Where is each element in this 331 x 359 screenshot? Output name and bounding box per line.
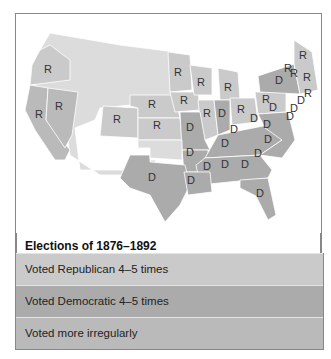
state-party-label: R xyxy=(44,63,52,75)
state-party-label: D xyxy=(186,121,194,133)
state-party-label: D xyxy=(269,101,277,113)
state-party-label: D xyxy=(230,123,238,135)
state-party-label: D xyxy=(221,137,229,149)
state-party-label: R xyxy=(113,113,121,125)
state-party-label: D xyxy=(275,74,283,86)
state-party-label: R xyxy=(299,49,307,61)
state-party-label: D xyxy=(241,158,249,170)
state-party-label: D xyxy=(203,160,211,172)
state-party-label: D xyxy=(186,146,194,158)
state-texas xyxy=(120,155,190,222)
state-party-label: R xyxy=(304,87,312,99)
state-party-label: R xyxy=(35,108,43,120)
state-party-label: D xyxy=(286,110,294,122)
legend-republican: Voted Republican 4–5 times xyxy=(16,253,323,285)
state-party-label: R xyxy=(224,81,232,93)
state-party-label: D xyxy=(297,94,305,106)
state-party-label: D xyxy=(264,133,272,145)
state-party-label: D xyxy=(263,118,271,130)
state-party-label: D xyxy=(256,187,264,199)
state-party-label: D xyxy=(218,107,226,119)
state-party-label: D xyxy=(250,112,258,124)
us-map: RRRRRRRRRRRDRRDRRRRRDDDDDDDDDDDDDDDDDD xyxy=(15,13,322,233)
state-party-label: R xyxy=(153,119,161,131)
legend: Voted Republican 4–5 times Voted Democra… xyxy=(15,253,324,350)
state-florida xyxy=(240,178,276,220)
state-party-label: D xyxy=(221,158,229,170)
state-party-label: D xyxy=(148,171,156,183)
state-party-label: R xyxy=(148,98,156,110)
state-party-label: R xyxy=(303,71,311,83)
state-party-label: R xyxy=(55,100,63,112)
state-party-label: R xyxy=(290,67,298,79)
state-party-label: R xyxy=(174,66,182,78)
state-party-label: R xyxy=(180,94,188,106)
legend-irregular: Voted more irregularly xyxy=(16,317,323,349)
state-party-label: D xyxy=(187,174,195,186)
state-party-label: R xyxy=(197,76,205,88)
state-party-label: D xyxy=(254,147,262,159)
state-party-label: R xyxy=(237,103,245,115)
state-party-label: R xyxy=(203,107,211,119)
legend-democratic: Voted Democratic 4–5 times xyxy=(16,285,323,317)
